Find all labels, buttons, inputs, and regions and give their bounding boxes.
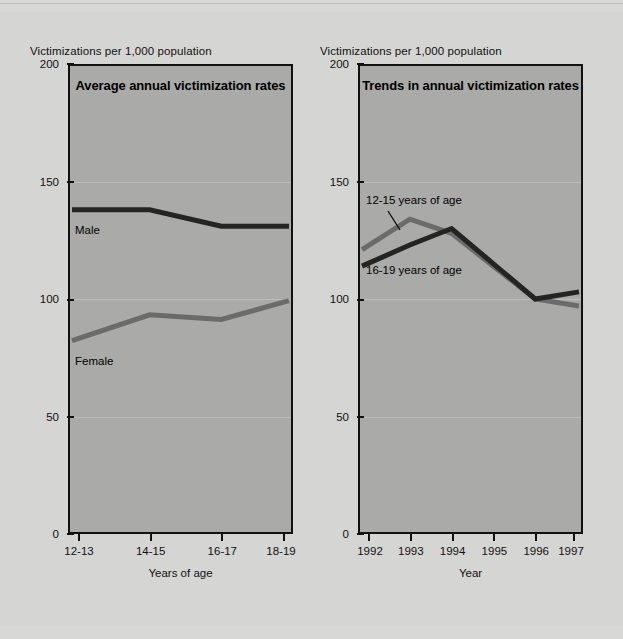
- left-xtick-mark-2: [150, 534, 152, 541]
- right-xtick-mark-1995: [493, 534, 495, 541]
- right-ytick-label-100: 100: [315, 293, 349, 305]
- right-xtick-mark-1993: [410, 534, 412, 541]
- right-xtick-mark-1996: [535, 534, 537, 541]
- right-series-label-12-15: 12-15 years of age: [366, 194, 462, 206]
- chart-trends-in-annual-victimization-rates: Victimizations per 1,000 population Tren…: [310, 12, 610, 626]
- right-xtick-mark-1997: [573, 534, 575, 541]
- right-plot-wrapper: Trends in annual victimization rates 200…: [358, 64, 583, 534]
- right-ytick-label-0: 0: [315, 528, 349, 540]
- left-xtick-label-12-13: 12-13: [64, 545, 93, 557]
- right-xtick-label-1996: 1996: [523, 545, 549, 557]
- right-xtick-label-1994: 1994: [440, 545, 466, 557]
- left-series-label-female: Female: [75, 355, 113, 367]
- right-ytick-label-200: 200: [315, 58, 349, 70]
- left-series-male-line: [72, 210, 289, 227]
- left-ytick-label-50: 50: [25, 411, 59, 423]
- right-series-lines: [358, 64, 583, 534]
- left-y-axis-title: Victimizations per 1,000 population: [30, 45, 212, 57]
- left-plot-wrapper: Average annual victimization rates 200 1…: [68, 64, 293, 534]
- right-y-axis-title: Victimizations per 1,000 population: [320, 45, 502, 57]
- right-series-12-15-line: [362, 219, 579, 306]
- right-ytick-label-150: 150: [315, 176, 349, 188]
- right-xtick-label-1995: 1995: [482, 545, 508, 557]
- right-xtick-label-1993: 1993: [398, 545, 424, 557]
- chart-average-annual-victimization-rates: Victimizations per 1,000 population Aver…: [20, 12, 320, 626]
- left-xtick-mark-4: [283, 534, 285, 541]
- left-xtick-mark-1: [78, 534, 80, 541]
- figure-panel: Victimizations per 1,000 population Aver…: [0, 12, 623, 626]
- left-xtick-label-16-17: 16-17: [208, 545, 237, 557]
- left-xtick-label-18-19: 18-19: [266, 545, 295, 557]
- page-top-rule: [0, 3, 623, 4]
- right-xtick-mark-1994: [452, 534, 454, 541]
- right-series-label-16-19: 16-19 years of age: [366, 264, 462, 276]
- left-series-label-male: Male: [75, 224, 100, 236]
- left-xtick-mark-3: [221, 534, 223, 541]
- left-ytick-label-100: 100: [25, 293, 59, 305]
- left-series-lines: [68, 64, 293, 534]
- left-xtick-label-14-15: 14-15: [136, 545, 165, 557]
- left-x-axis-title: Years of age: [68, 567, 293, 579]
- right-xtick-mark-1992: [368, 534, 370, 541]
- right-ytick-label-50: 50: [315, 411, 349, 423]
- right-x-axis-title: Year: [358, 567, 583, 579]
- left-ytick-label-150: 150: [25, 176, 59, 188]
- left-ytick-label-200: 200: [25, 58, 59, 70]
- right-xtick-label-1997: 1997: [558, 545, 584, 557]
- right-xtick-label-1992: 1992: [357, 545, 383, 557]
- left-series-female-line: [72, 301, 289, 341]
- left-ytick-label-0: 0: [25, 528, 59, 540]
